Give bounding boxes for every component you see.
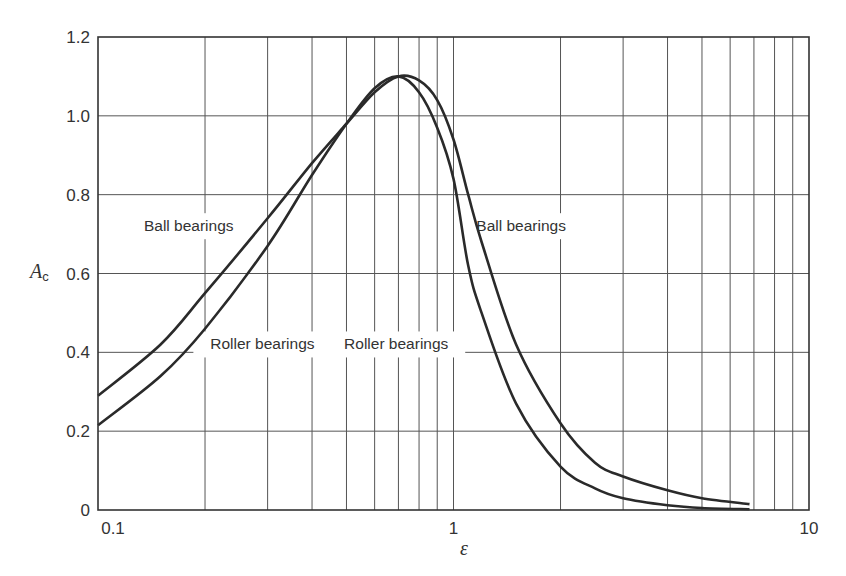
y-tick-label: 0.8 bbox=[66, 186, 90, 205]
y-axis-label: Ac bbox=[28, 260, 49, 284]
annotation-label: Roller bearings bbox=[210, 335, 314, 352]
y-tick-label: 1.2 bbox=[66, 28, 90, 47]
curve-roller-bearings bbox=[98, 76, 750, 509]
y-tick-label: 0.6 bbox=[66, 265, 90, 284]
x-tick-label: 10 bbox=[800, 519, 819, 538]
data-curves bbox=[98, 76, 750, 510]
x-tick-label: 1 bbox=[449, 519, 458, 538]
y-tick-label: 1.0 bbox=[66, 107, 90, 126]
y-axis-tick-labels: 00.20.40.60.81.01.2 bbox=[66, 28, 90, 520]
y-tick-label: 0.2 bbox=[66, 422, 90, 441]
annotation-label: Ball bearings bbox=[476, 217, 566, 234]
x-axis-tick-labels: 0.1110 bbox=[101, 519, 818, 538]
annotation-label: Roller bearings bbox=[344, 335, 448, 352]
y-tick-label: 0 bbox=[81, 501, 90, 520]
x-tick-label: 0.1 bbox=[101, 519, 125, 538]
x-axis-label: ε bbox=[460, 537, 468, 559]
grid-lines bbox=[98, 37, 809, 510]
annotation-label: Ball bearings bbox=[144, 217, 234, 234]
curve-ball-bearings bbox=[98, 76, 750, 504]
y-tick-label: 0.4 bbox=[66, 343, 90, 362]
bearing-coefficient-chart: 00.20.40.60.81.01.2 0.1110 Ball bearings… bbox=[0, 0, 846, 576]
